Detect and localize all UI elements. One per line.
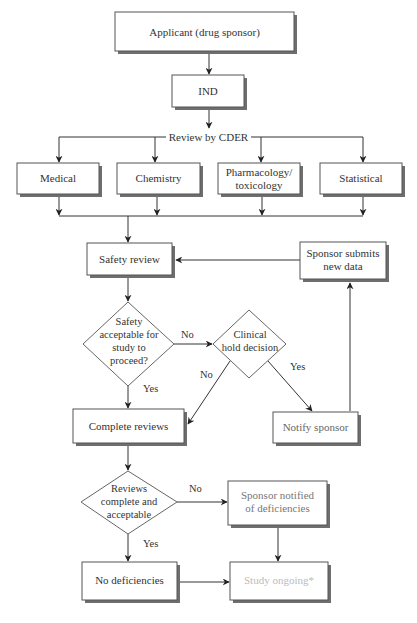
- edge-label-safety-yes: Yes: [143, 383, 158, 394]
- node-medical: Medical: [17, 163, 102, 197]
- node-sponsor-submits: Sponsor submits new data: [300, 242, 389, 282]
- decision-reviews-line1: Reviews: [111, 483, 147, 494]
- node-notify-sponsor: Notify sponsor: [273, 412, 361, 446]
- node-complete-reviews: Complete reviews: [73, 409, 187, 446]
- node-ind: IND: [172, 75, 247, 110]
- edge-label-reviews-yes: Yes: [143, 538, 158, 549]
- node-sponsor-submits-line2: new data: [323, 260, 363, 272]
- node-medical-label: Medical: [40, 172, 76, 184]
- node-statistical: Statistical: [320, 163, 405, 197]
- decision-reviews-line3: acceptable: [107, 509, 152, 520]
- node-notify-sponsor-label: Notify sponsor: [283, 421, 349, 433]
- node-ind-label: IND: [198, 85, 218, 97]
- node-pharmacology-label-line1: Pharmacology/: [226, 166, 294, 178]
- node-pharmacology: Pharmacology/ toxicology: [218, 163, 303, 197]
- decision-clinical-line2: hold decision: [222, 342, 279, 353]
- ind-review-flowchart: Applicant (drug sponsor) IND Review by C…: [0, 0, 417, 623]
- node-sponsor-notified: Sponsor notified of deficiencies: [228, 481, 330, 528]
- node-no-deficiencies-label: No deficiencies: [95, 574, 164, 586]
- edge-label-reviews-no: No: [189, 483, 202, 494]
- decision-safety-line3: study to: [112, 342, 146, 353]
- node-safety-review-label: Safety review: [99, 253, 160, 265]
- node-chemistry: Chemistry: [117, 163, 203, 197]
- decision-reviews-complete: Reviews complete and acceptable: [81, 471, 177, 534]
- edge-label-safety-no: No: [181, 329, 194, 340]
- node-sponsor-notified-line1: Sponsor notified: [241, 489, 315, 501]
- edge-label-clinical-yes: Yes: [290, 361, 305, 372]
- node-statistical-label: Statistical: [339, 172, 382, 184]
- node-pharmacology-label-line2: toxicology: [235, 179, 283, 191]
- node-applicant: Applicant (drug sponsor): [115, 12, 297, 54]
- node-chemistry-label: Chemistry: [136, 172, 182, 184]
- node-sponsor-submits-line1: Sponsor submits: [306, 247, 379, 259]
- node-sponsor-notified-line2: of deficiencies: [245, 502, 309, 514]
- node-safety-review: Safety review: [87, 243, 175, 278]
- node-study-ongoing: Study ongoing*: [230, 562, 331, 603]
- node-study-ongoing-label: Study ongoing*: [244, 574, 314, 586]
- decision-safety-acceptable: Safety acceptable for study to proceed?: [83, 302, 174, 386]
- review-by-cder-label: Review by CDER: [169, 131, 249, 143]
- edge-label-clinical-no: No: [200, 369, 213, 380]
- decision-safety-line1: Safety: [116, 316, 144, 327]
- decision-reviews-line2: complete and: [101, 496, 158, 507]
- decision-safety-line2: acceptable for: [99, 329, 159, 340]
- decision-clinical-hold: Clinical hold decision: [213, 310, 286, 378]
- node-no-deficiencies: No deficiencies: [82, 562, 180, 603]
- decision-safety-line4: proceed?: [110, 355, 148, 366]
- node-complete-reviews-label: Complete reviews: [89, 420, 169, 432]
- decision-clinical-line1: Clinical: [233, 329, 266, 340]
- node-applicant-label: Applicant (drug sponsor): [149, 26, 260, 39]
